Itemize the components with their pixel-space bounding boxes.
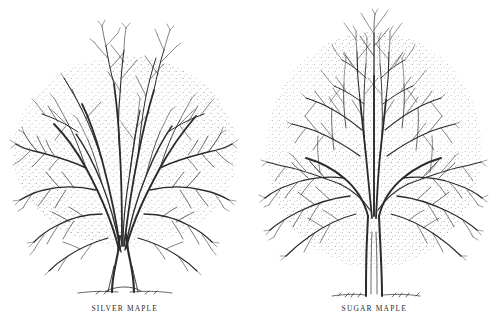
illustration-plate: SILVER MAPLE	[0, 0, 499, 328]
silver-maple-twig-fringe	[10, 20, 238, 275]
silver-maple-ground-line	[78, 291, 172, 294]
silver-maple-drawing	[0, 0, 250, 328]
silver-maple-left-limbs	[16, 103, 108, 271]
sugar-maple-central-leaders	[317, 14, 432, 172]
tree-panel-sugar-maple: SUGAR MAPLE	[250, 0, 499, 328]
sugar-maple-left-branches	[265, 49, 366, 256]
tree-panel-silver-maple: SILVER MAPLE	[0, 0, 250, 328]
silver-maple-upper-twigs	[54, 26, 192, 184]
caption-silver-maple: SILVER MAPLE	[0, 304, 250, 313]
sugar-maple-branch-structure	[259, 9, 488, 297]
sugar-maple-scaffold-limbs	[306, 76, 441, 218]
sugar-maple-twig-fringe	[259, 9, 488, 260]
silver-maple-main-stems	[54, 84, 196, 252]
sugar-maple-ground-line	[332, 293, 420, 297]
caption-sugar-maple: SUGAR MAPLE	[250, 304, 499, 313]
sugar-maple-drawing	[250, 0, 499, 328]
sugar-maple-trunk	[366, 216, 382, 296]
silver-maple-branch-structure	[10, 20, 238, 294]
silver-maple-right-limbs	[138, 103, 232, 271]
sugar-maple-crown-stipple	[265, 18, 483, 269]
silver-maple-trunk	[106, 234, 141, 292]
silver-maple-crown-stipple	[12, 50, 238, 247]
sugar-maple-right-branches	[381, 49, 482, 256]
